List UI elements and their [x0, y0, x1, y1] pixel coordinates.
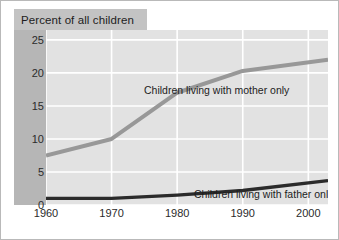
y-tick-label: 20	[14, 67, 44, 79]
x-tick-label: 1980	[165, 207, 189, 219]
x-tick-label: 1970	[99, 207, 123, 219]
data-series-layer	[46, 30, 328, 205]
y-tick-label: 15	[14, 100, 44, 112]
y-tick-label: 10	[14, 133, 44, 145]
x-tick-label: 1990	[230, 207, 254, 219]
y-tick-label: 25	[14, 34, 44, 46]
y-axis-ticks: 0510152025	[11, 30, 44, 205]
x-tick-label: 2000	[296, 207, 320, 219]
x-tick-label: 1960	[34, 207, 58, 219]
y-tick-label: 5	[14, 166, 44, 178]
x-axis-ticks: 19601970198019902000	[46, 207, 328, 227]
chart-figure: Percent of all children Children living …	[0, 0, 339, 240]
series-label-mother: Children living with mother only	[144, 84, 289, 96]
chart-title: Percent of all children	[21, 14, 134, 26]
series-label-father: Children living with father only	[194, 188, 328, 200]
chart-title-band: Percent of all children	[14, 9, 147, 30]
plot-area: Children living with mother only Childre…	[46, 30, 328, 205]
